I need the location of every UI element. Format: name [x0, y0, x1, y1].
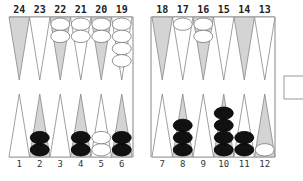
white-checker[interactable]: [112, 30, 131, 42]
point-number: 7: [160, 159, 165, 169]
point-number: 23: [34, 4, 46, 15]
point-number: 13: [259, 4, 271, 15]
point-14[interactable]: [234, 17, 255, 80]
point-number: 8: [180, 159, 185, 169]
point-9[interactable]: [193, 94, 214, 157]
black-checker[interactable]: [235, 144, 254, 156]
point-7[interactable]: [152, 94, 173, 157]
black-checker[interactable]: [235, 131, 254, 143]
point-number: 14: [238, 4, 250, 15]
point-number: 16: [197, 4, 209, 15]
black-checker[interactable]: [71, 131, 90, 143]
white-checker[interactable]: [112, 42, 131, 54]
point-number: 22: [54, 4, 66, 15]
black-checker[interactable]: [214, 131, 233, 143]
black-checker[interactable]: [112, 144, 131, 156]
point-1[interactable]: [9, 94, 30, 157]
white-checker[interactable]: [194, 18, 213, 30]
black-checker[interactable]: [173, 131, 192, 143]
black-checker[interactable]: [71, 144, 90, 156]
white-checker[interactable]: [92, 18, 111, 30]
white-checker[interactable]: [92, 131, 111, 143]
white-checker[interactable]: [92, 30, 111, 42]
black-checker[interactable]: [30, 131, 49, 143]
backgammon-board: 242322212019181716151413123456789101112: [0, 0, 303, 181]
point-number: 12: [259, 159, 270, 169]
point-3[interactable]: [50, 94, 71, 157]
white-checker[interactable]: [51, 18, 70, 30]
white-checker[interactable]: [173, 18, 192, 30]
point-number: 4: [78, 159, 83, 169]
point-number: 9: [201, 159, 206, 169]
point-number: 3: [58, 159, 63, 169]
white-checker[interactable]: [71, 30, 90, 42]
white-checker[interactable]: [255, 144, 274, 156]
white-checker[interactable]: [92, 144, 111, 156]
doubling-cube-box[interactable]: [284, 76, 303, 99]
black-checker[interactable]: [30, 144, 49, 156]
white-checker[interactable]: [51, 30, 70, 42]
point-number: 20: [95, 4, 107, 15]
white-checker[interactable]: [71, 18, 90, 30]
point-number: 1: [17, 159, 22, 169]
white-checker[interactable]: [112, 18, 131, 30]
point-number: 18: [156, 4, 168, 15]
point-number: 19: [116, 4, 128, 15]
point-number: 15: [218, 4, 230, 15]
white-checker[interactable]: [112, 55, 131, 67]
point-number: 5: [99, 159, 104, 169]
white-checker[interactable]: [194, 30, 213, 42]
black-checker[interactable]: [214, 107, 233, 119]
point-13[interactable]: [255, 17, 276, 80]
point-23[interactable]: [30, 17, 51, 80]
point-number: 24: [13, 4, 25, 15]
point-18[interactable]: [152, 17, 173, 80]
black-checker[interactable]: [214, 119, 233, 131]
black-checker[interactable]: [173, 119, 192, 131]
black-checker[interactable]: [173, 144, 192, 156]
point-number: 21: [75, 4, 87, 15]
point-24[interactable]: [9, 17, 30, 80]
point-number: 10: [218, 159, 229, 169]
point-number: 17: [177, 4, 189, 15]
point-number: 2: [37, 159, 42, 169]
black-checker[interactable]: [214, 144, 233, 156]
point-number: 11: [239, 159, 250, 169]
black-checker[interactable]: [112, 131, 131, 143]
point-number: 6: [119, 159, 124, 169]
point-15[interactable]: [214, 17, 235, 80]
